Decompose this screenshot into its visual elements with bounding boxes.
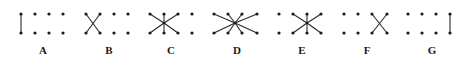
grid-dot <box>190 31 193 34</box>
panel-d: D <box>212 12 258 56</box>
grid-dot <box>61 31 64 34</box>
grid-dot <box>319 31 322 34</box>
panel-label: A <box>39 44 47 56</box>
grid-dot <box>98 31 101 34</box>
panel-label: D <box>233 44 241 56</box>
grid-dot <box>291 12 294 15</box>
grid-dot <box>162 12 165 15</box>
panel-label: B <box>105 44 113 56</box>
edge-line <box>307 14 321 23</box>
grid-dot <box>240 31 243 34</box>
grid-dot <box>385 12 388 15</box>
grid-dot <box>305 31 308 34</box>
grid-dot <box>176 12 179 15</box>
grid-dot <box>176 31 179 34</box>
panel-label: C <box>167 44 175 56</box>
grid-dot <box>47 31 50 34</box>
grid-dot <box>406 31 409 34</box>
grid-dot <box>370 12 373 15</box>
grid-dot <box>277 31 280 34</box>
grid-dot <box>255 31 258 34</box>
grid-dot <box>126 12 129 15</box>
grid-dot <box>84 31 87 34</box>
grid-dot <box>434 12 437 15</box>
grid-dot <box>162 31 165 34</box>
grid-dot <box>448 12 451 15</box>
grid-dot <box>112 31 115 34</box>
grid-dot <box>212 31 215 34</box>
edge-line <box>164 23 178 33</box>
grid-dot <box>190 12 193 15</box>
grid-dot <box>277 12 280 15</box>
grid-dot <box>47 12 50 15</box>
grid-dot <box>305 12 308 15</box>
grid-dot <box>291 31 294 34</box>
grid-dot <box>420 12 423 15</box>
edge-line <box>150 14 164 23</box>
grid-dot <box>420 31 423 34</box>
grid-dot <box>370 31 373 34</box>
grid-dot <box>19 31 22 34</box>
grid-dot <box>319 12 322 15</box>
panel-e: E <box>277 12 322 56</box>
center-node <box>306 22 309 25</box>
panel-label: E <box>298 44 305 56</box>
panel-g: G <box>406 12 451 56</box>
grid-dot <box>342 31 345 34</box>
grid-dot <box>84 12 87 15</box>
center-node <box>163 22 166 25</box>
edge-line <box>293 14 307 23</box>
grid-dot <box>19 12 22 15</box>
edge-line <box>307 23 321 33</box>
grid-dot <box>356 12 359 15</box>
panel-f: F <box>342 12 388 56</box>
edge-line <box>150 23 164 33</box>
grid-dot <box>148 12 151 15</box>
grid-dot <box>240 12 243 15</box>
panel-label: F <box>364 44 371 56</box>
grid-dot <box>434 31 437 34</box>
grid-dot <box>98 12 101 15</box>
grid-dot <box>385 31 388 34</box>
grid-dot <box>342 12 345 15</box>
panel-a: A <box>19 12 64 56</box>
grid-dot <box>61 12 64 15</box>
grid-dot <box>448 31 451 34</box>
grid-dot <box>148 31 151 34</box>
grid-dot <box>33 12 36 15</box>
grid-dot <box>33 31 36 34</box>
panel-label: G <box>428 44 437 56</box>
panel-c: C <box>148 12 193 56</box>
grid-dot <box>255 12 258 15</box>
edge-line <box>293 23 307 33</box>
dot-grid-diagram: ABCDEFG <box>0 0 464 62</box>
grid-dot <box>406 12 409 15</box>
grid-dot <box>126 31 129 34</box>
grid-dot <box>112 12 115 15</box>
edge-line <box>164 14 178 23</box>
panel-b: B <box>84 12 129 56</box>
grid-dot <box>226 12 229 15</box>
grid-dot <box>212 12 215 15</box>
grid-dot <box>226 31 229 34</box>
center-node <box>234 22 237 25</box>
grid-dot <box>356 31 359 34</box>
